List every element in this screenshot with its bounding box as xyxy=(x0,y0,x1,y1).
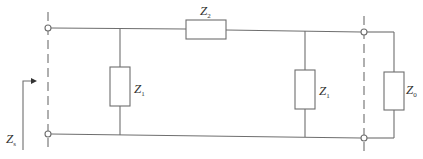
output-terminal-top xyxy=(361,29,367,35)
label-z2: Z2 xyxy=(200,3,211,20)
shunt-impedance-z1-left xyxy=(110,67,130,106)
input-terminal-top xyxy=(45,25,51,31)
bottom-rail xyxy=(51,134,361,138)
label-z1-right: Z1 xyxy=(319,83,330,100)
label-z1-left: Z1 xyxy=(134,81,145,98)
output-terminal-bottom xyxy=(361,135,367,141)
load-impedance-z0 xyxy=(384,72,404,110)
top-rail-left xyxy=(51,28,186,29)
series-impedance-z2 xyxy=(186,20,226,39)
label-z0: Z0 xyxy=(406,82,417,99)
top-rail-right xyxy=(226,30,361,32)
label-zs: Zs xyxy=(6,131,16,148)
ladder-network-diagram: Z2 Z1 Z1 Z0 Zs xyxy=(0,0,423,159)
input-terminal-bottom xyxy=(45,131,51,137)
input-impedance-arrow xyxy=(23,81,33,150)
arrow-head-icon xyxy=(31,78,37,84)
shunt-impedance-z1-right xyxy=(295,70,315,109)
